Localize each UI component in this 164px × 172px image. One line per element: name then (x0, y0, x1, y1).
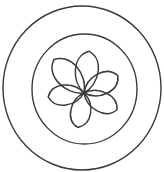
petal-lower-right (79, 84, 121, 119)
figure-canvas (0, 0, 164, 172)
flower-icon (45, 50, 123, 129)
flower-circle-drawing (0, 0, 164, 172)
